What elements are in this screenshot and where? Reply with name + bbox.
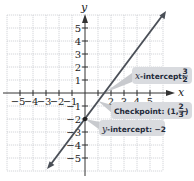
y-intercept-text: -intercept: −2 [107,125,166,134]
y-tick-label: −2 [66,114,81,125]
y-tick-label: 5 [75,23,81,34]
svg-text:x-intercept:: x-intercept: [135,71,185,81]
y-tick-label: 2 [75,62,81,73]
y-tick-label: 3 [75,49,81,60]
x-axis-label: x [178,86,185,99]
y-tick-label: −1 [66,101,81,112]
line-arrow-down-icon [47,161,54,169]
checkpoint-close: ) [185,107,188,116]
y-intercept-callout: y-intercept: −2 [99,120,166,136]
x-intercept-denominator: 2 [182,75,187,84]
y-intercept-point [83,117,87,121]
svg-text:y-intercept: −2: y-intercept: −2 [101,124,166,134]
x-axis-arrow-icon [166,90,175,96]
y-axis-label: y [80,1,88,14]
checkpoint-callout: Checkpoint: (1, − 2 3 ) [111,102,192,119]
checkpoint-text: Checkpoint: (1, − [114,107,187,116]
line-graph: x y −5 −4 −3 −2 −1 2 3 4 5 5 4 3 2 1 −1 … [0,0,194,181]
y-tick-label: 1 [75,75,81,86]
y-axis [82,14,88,176]
y-tick-label: −5 [66,153,81,164]
checkpoint-denominator: 3 [178,110,183,119]
y-tick-label: 4 [75,36,81,47]
x-intercept-text: -intercept: [140,72,185,81]
x-intercept-callout: x-intercept: 3 2 [132,67,192,84]
